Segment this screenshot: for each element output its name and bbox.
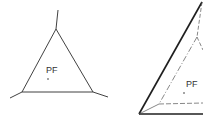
left-corner-extension [10,92,22,98]
left-triangle [22,29,93,92]
right-corner-extension [93,92,108,97]
left-pf-point [47,78,49,80]
left-pf-label: PF [46,65,58,75]
right-pf-label: PF [186,79,198,89]
diagram-canvas: PF PF [0,0,203,120]
left-apex-extension [56,10,58,29]
inner-right-edge [197,37,203,50]
right-outer-edge-left [139,2,202,114]
right-figure: PF [139,2,203,114]
inner-left-edge [159,37,197,104]
inner-base [159,103,203,104]
left-figure: PF [10,10,108,98]
right-pf-point [183,92,185,94]
